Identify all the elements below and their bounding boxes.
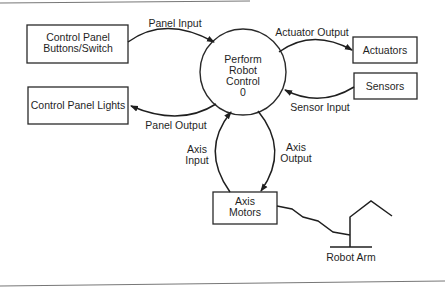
flow-panel-output[interactable]: Panel Output [131, 104, 216, 131]
flow-panel-input[interactable]: Panel Input [128, 17, 214, 42]
robot-arm-linkage [350, 201, 392, 247]
top-frame-line [0, 1, 250, 3]
entity-label: Sensors [366, 80, 405, 92]
flow-arrow [215, 112, 231, 192]
process-label-line-4: 0 [240, 86, 246, 98]
entity-actuators[interactable]: Actuators [353, 37, 417, 63]
flow-label-line-2: Output [280, 152, 312, 164]
flow-arrow [258, 111, 275, 191]
entity-label-line-2: Motors [229, 206, 261, 218]
entity-axis-motors[interactable]: Axis Motors [213, 192, 277, 224]
flow-axis-output[interactable]: Axis Output [258, 111, 312, 191]
flow-arrow [285, 87, 354, 98]
flow-sensor-input[interactable]: Sensor Input [285, 87, 354, 113]
context-diagram: Perform Robot Control 0 Control Panel Bu… [0, 0, 445, 288]
entity-control-panel-buttons[interactable]: Control Panel Buttons/Switch [27, 25, 128, 63]
flow-arrow [279, 39, 352, 52]
flow-label: Sensor Input [290, 101, 350, 113]
flow-label-line-2: Input [185, 154, 208, 166]
robot-arm-illustration: Robot Arm [277, 201, 392, 263]
flow-arrow [128, 29, 214, 43]
flow-label: Panel Input [148, 17, 201, 29]
entity-label: Control Panel Lights [31, 99, 126, 111]
flow-arrow [131, 104, 216, 116]
bottom-frame-line [0, 281, 445, 286]
flow-actuator-output[interactable]: Actuator Output [275, 26, 352, 52]
entity-control-panel-lights[interactable]: Control Panel Lights [28, 87, 128, 124]
robot-arm-label: Robot Arm [326, 251, 376, 263]
motor-cable [277, 206, 350, 235]
entity-label: Actuators [363, 44, 407, 56]
entity-label-line-2: Buttons/Switch [43, 42, 113, 54]
flow-label: Actuator Output [275, 26, 349, 38]
entity-sensors[interactable]: Sensors [354, 73, 417, 99]
flow-label: Panel Output [145, 119, 206, 131]
